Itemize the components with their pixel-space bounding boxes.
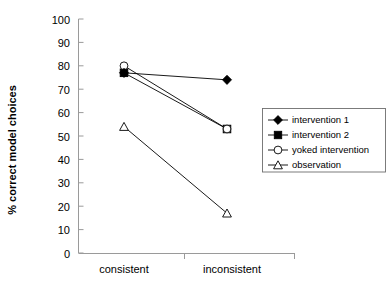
y-tick-50: 50 (58, 131, 70, 143)
x-tick-consistent: consistent (99, 263, 149, 275)
legend-item-intervention-2[interactable]: intervention 2 (268, 129, 349, 140)
filled-square-icon (274, 131, 281, 138)
series-observation (120, 122, 232, 217)
series-intervention-1 (120, 68, 232, 84)
line-chart: % correct model choices 100 90 80 70 60 … (0, 0, 389, 299)
y-tick-0: 0 (64, 248, 70, 260)
y-tick-70: 70 (58, 84, 70, 96)
x-tick-inconsistent: inconsistent (203, 263, 261, 275)
open-circle-icon (274, 146, 282, 154)
legend: intervention 1 intervention 2 yoked inte… (263, 109, 386, 173)
y-tick-90: 90 (58, 37, 70, 49)
marker-open-triangle (120, 122, 129, 130)
y-axis-title-text: % correct model choices (6, 85, 18, 215)
legend-label-intervention-2: intervention 2 (292, 129, 349, 140)
y-tick-30: 30 (58, 177, 70, 189)
y-axis (79, 19, 84, 253)
legend-label-intervention-1: intervention 1 (292, 114, 349, 125)
x-axis (79, 254, 296, 260)
y-tick-60: 60 (58, 107, 70, 119)
y-axis-title: % correct model choices (6, 85, 18, 215)
chart-container: % correct model choices 100 90 80 70 60 … (0, 0, 389, 299)
y-tick-100: 100 (52, 14, 70, 26)
y-tick-40: 40 (58, 154, 70, 166)
marker-open-circle (223, 125, 231, 133)
y-tick-80: 80 (58, 60, 70, 72)
legend-label-yoked-intervention: yoked intervention (292, 144, 369, 155)
legend-label-observation: observation (292, 159, 341, 170)
x-axis-tick-labels: consistent inconsistent (99, 263, 261, 275)
y-tick-10: 10 (58, 224, 70, 236)
y-axis-tick-labels: 100 90 80 70 60 50 40 30 20 10 0 (52, 14, 70, 260)
marker-filled-diamond (223, 75, 232, 84)
y-tick-20: 20 (58, 201, 70, 213)
